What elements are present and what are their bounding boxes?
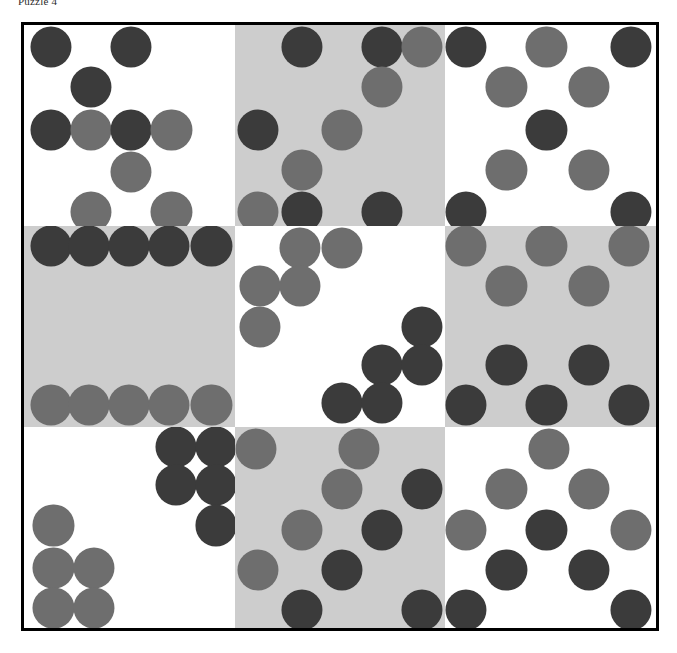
dot-dark	[69, 226, 110, 267]
dot-mid	[322, 469, 363, 510]
dot-dark	[111, 109, 152, 150]
dot-mid	[322, 228, 363, 269]
dot-mid	[568, 266, 609, 307]
puzzle-cell-r2-c2[interactable]	[445, 427, 656, 628]
dot-dark	[322, 549, 363, 590]
dot-dark	[526, 384, 567, 425]
dot-dark	[195, 465, 235, 506]
dot-mid	[362, 67, 403, 108]
dot-mid	[282, 509, 323, 550]
dot-mid	[486, 67, 527, 108]
dot-dark	[568, 344, 609, 385]
dot-dark	[31, 109, 72, 150]
dot-dark	[191, 226, 232, 267]
dot-dark	[568, 549, 609, 590]
dot-mid	[568, 67, 609, 108]
dot-dark	[195, 505, 235, 546]
puzzle-frame	[21, 22, 659, 631]
dot-dark	[446, 384, 487, 425]
dot-mid	[528, 429, 569, 470]
dot-dark	[111, 27, 152, 68]
dot-mid	[71, 109, 112, 150]
dot-mid	[446, 509, 487, 550]
dot-mid	[338, 429, 379, 470]
puzzle-cell-r2-c0[interactable]	[24, 427, 235, 628]
dot-mid	[610, 509, 651, 550]
dot-dark	[362, 344, 403, 385]
dot-dark	[446, 589, 487, 628]
dot-dark	[446, 191, 487, 226]
dot-dark	[282, 589, 323, 628]
dot-dark	[282, 27, 323, 68]
puzzle-cell-r1-c1[interactable]	[235, 226, 446, 427]
dot-mid	[237, 549, 278, 590]
dot-mid	[237, 191, 278, 226]
dot-mid	[151, 191, 192, 226]
puzzle-cell-r0-c0[interactable]	[24, 25, 235, 226]
dot-dark	[610, 191, 651, 226]
dot-mid	[31, 384, 72, 425]
dot-mid	[568, 149, 609, 190]
dot-mid	[33, 505, 74, 546]
dot-dark	[31, 226, 72, 267]
dot-dark	[610, 27, 651, 68]
puzzle-grid	[24, 25, 656, 628]
dot-dark	[282, 191, 323, 226]
dot-mid	[486, 266, 527, 307]
dot-dark	[610, 589, 651, 628]
dot-mid	[526, 27, 567, 68]
dot-dark	[486, 549, 527, 590]
dot-mid	[151, 109, 192, 150]
dot-mid	[608, 226, 649, 267]
dot-mid	[239, 266, 280, 307]
dot-mid	[486, 149, 527, 190]
dot-dark	[109, 226, 150, 267]
dot-dark	[608, 384, 649, 425]
dot-dark	[402, 344, 443, 385]
dot-mid	[191, 384, 232, 425]
dot-dark	[402, 306, 443, 347]
dot-dark	[402, 469, 443, 510]
dot-mid	[109, 384, 150, 425]
dot-dark	[402, 589, 443, 628]
dot-dark	[446, 27, 487, 68]
dot-mid	[33, 587, 74, 628]
dot-mid	[486, 469, 527, 510]
dot-dark	[362, 509, 403, 550]
dot-mid	[568, 469, 609, 510]
dot-mid	[239, 306, 280, 347]
dot-mid	[149, 384, 190, 425]
puzzle-cell-r1-c0[interactable]	[24, 226, 235, 427]
dot-dark	[362, 382, 403, 423]
dot-dark	[526, 109, 567, 150]
puzzle-cell-r2-c1[interactable]	[235, 427, 446, 628]
dot-mid	[69, 384, 110, 425]
dot-dark	[71, 67, 112, 108]
dot-dark	[322, 382, 363, 423]
dot-mid	[402, 27, 443, 68]
dot-mid	[322, 109, 363, 150]
dot-dark	[526, 509, 567, 550]
dot-dark	[195, 427, 235, 468]
dot-dark	[31, 27, 72, 68]
dot-mid	[446, 226, 487, 267]
dot-dark	[149, 226, 190, 267]
dot-dark	[155, 465, 196, 506]
puzzle-cell-r0-c1[interactable]	[235, 25, 446, 226]
puzzle-cell-r0-c2[interactable]	[445, 25, 656, 226]
dot-mid	[73, 547, 114, 588]
dot-mid	[71, 191, 112, 226]
dot-dark	[362, 191, 403, 226]
dot-dark	[486, 344, 527, 385]
puzzle-cell-r1-c2[interactable]	[445, 226, 656, 427]
dot-mid	[279, 228, 320, 269]
dot-dark	[155, 427, 196, 468]
dot-mid	[282, 149, 323, 190]
dot-mid	[235, 429, 276, 470]
dot-dark	[237, 109, 278, 150]
dot-mid	[33, 547, 74, 588]
dot-mid	[526, 226, 567, 267]
dot-mid	[279, 266, 320, 307]
dot-mid	[111, 151, 152, 192]
dot-mid	[73, 587, 114, 628]
